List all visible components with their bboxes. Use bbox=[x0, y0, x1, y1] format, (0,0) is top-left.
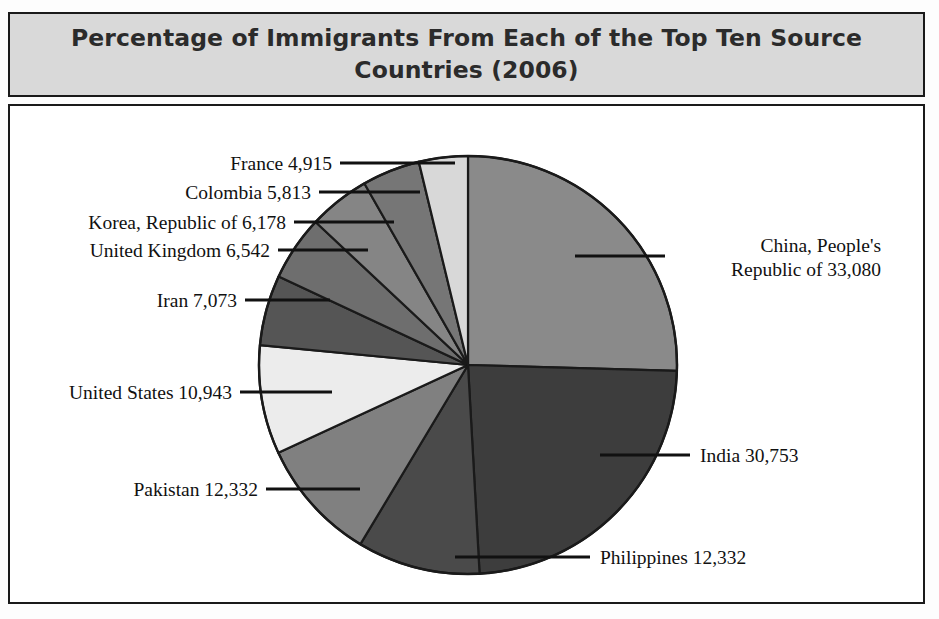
chart-title-box: Percentage of Immigrants From Each of th… bbox=[8, 12, 925, 97]
chart-title-line-1: Percentage of Immigrants From Each of th… bbox=[71, 24, 862, 52]
figure-container: Percentage of Immigrants From Each of th… bbox=[0, 0, 939, 619]
page-title: Percentage of Immigrants From Each of th… bbox=[45, 23, 888, 86]
chart-plot-box bbox=[8, 104, 925, 604]
chart-title-line-2: Countries (2006) bbox=[354, 56, 578, 84]
